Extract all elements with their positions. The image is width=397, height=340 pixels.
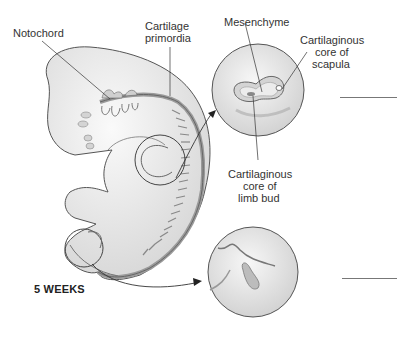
label-limb-bud-1: Cartilaginous [228, 168, 292, 180]
label-scapula-1: Cartilaginous [300, 34, 364, 46]
inset-circle-upper [212, 44, 304, 136]
answer-blank-lower[interactable] [342, 278, 397, 279]
label-scapula-2: core of [315, 46, 349, 58]
label-notochord: Notochord [13, 27, 64, 39]
answer-blank-upper[interactable] [340, 97, 397, 98]
inset-circle-lower [208, 227, 298, 317]
embryo-body [46, 47, 210, 280]
label-limb-bud-3: limb bud [238, 192, 280, 204]
label-cartilage-primordia-2: primordia [145, 32, 191, 44]
label-scapula-3: scapula [312, 58, 350, 70]
label-mesenchyme: Mesenchyme [224, 16, 289, 28]
label-cartilage-primordia-1: Cartilage [145, 20, 189, 32]
label-limb-bud-2: core of [243, 180, 277, 192]
stage-label: 5 WEEKS [34, 283, 85, 295]
